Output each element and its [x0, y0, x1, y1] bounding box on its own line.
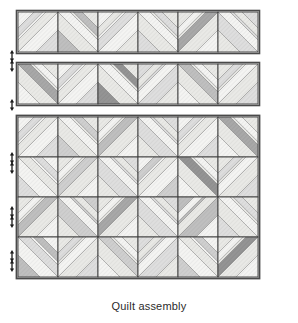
arrow-head-up — [10, 162, 14, 165]
seam-arrow-group — [10, 50, 14, 272]
quilt-block — [18, 12, 58, 52]
quilt-block — [138, 157, 178, 197]
figure-caption: Quilt assembly — [0, 300, 298, 312]
quilt-block — [218, 197, 258, 237]
quilt-block — [58, 197, 98, 237]
strip-row-2 — [17, 63, 260, 106]
quilt-block — [98, 237, 138, 277]
quilt-block — [138, 12, 178, 52]
quilt-body — [17, 116, 260, 279]
quilt-block — [58, 157, 98, 197]
quilt-block — [138, 117, 178, 157]
quilt-block — [178, 64, 218, 104]
arrow-head-up — [10, 60, 14, 63]
quilt-block — [58, 64, 98, 104]
quilt-block — [98, 197, 138, 237]
quilt-block — [18, 64, 58, 104]
quilt-block — [178, 117, 218, 157]
seam-arrow-5 — [10, 162, 14, 174]
quilt-block — [218, 237, 258, 277]
quilt-block — [98, 64, 138, 104]
seam-arrow-3 — [10, 99, 14, 111]
quilt-block — [18, 117, 58, 157]
arrow-head-down — [10, 269, 14, 272]
quilt-block — [58, 117, 98, 157]
quilt-block — [138, 197, 178, 237]
quilt-block — [218, 12, 258, 52]
quilt-assembly-figure — [0, 0, 298, 323]
quilt-block — [18, 157, 58, 197]
arrow-head-up — [10, 250, 14, 253]
quilt-block — [138, 64, 178, 104]
arrow-head-up — [10, 152, 14, 155]
quilt-block — [98, 157, 138, 197]
seam-arrow-9 — [10, 260, 14, 272]
quilt-block — [178, 12, 218, 52]
quilt-block — [58, 12, 98, 52]
quilt-block — [18, 237, 58, 277]
arrow-head-up — [10, 260, 14, 263]
quilt-block — [218, 64, 258, 104]
quilt-block — [98, 12, 138, 52]
quilt-block — [178, 157, 218, 197]
seam-arrow-7 — [10, 216, 14, 228]
quilt-block — [178, 237, 218, 277]
quilt-row-2 — [18, 157, 258, 197]
arrow-head-up — [10, 99, 14, 102]
quilt-row-3 — [18, 197, 258, 237]
quilt-diagram — [0, 0, 298, 300]
quilt-block — [18, 197, 58, 237]
arrow-head-down — [10, 171, 14, 174]
arrow-head-up — [10, 50, 14, 53]
arrow-head-down — [10, 225, 14, 228]
quilt-block — [218, 117, 258, 157]
quilt-row-4 — [18, 237, 258, 277]
quilt-block — [138, 237, 178, 277]
quilt-block — [58, 237, 98, 277]
quilt-block — [98, 117, 138, 157]
quilt-block — [178, 197, 218, 237]
quilt-block — [218, 157, 258, 197]
arrow-head-up — [10, 206, 14, 209]
strip-row-1 — [17, 11, 260, 54]
arrow-head-down — [10, 69, 14, 72]
arrow-head-down — [10, 108, 14, 111]
seam-arrow-2 — [10, 60, 14, 72]
arrow-head-up — [10, 216, 14, 219]
quilt-row-1 — [18, 117, 258, 157]
